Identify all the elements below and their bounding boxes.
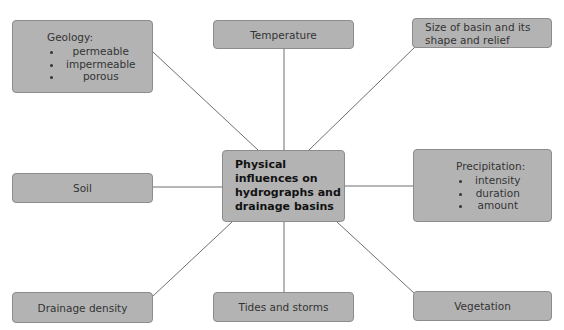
connector-geology bbox=[153, 52, 258, 150]
temperature-box: Temperature bbox=[213, 20, 354, 49]
soil-label: Soil bbox=[73, 182, 92, 194]
tides-box: Tides and storms bbox=[213, 292, 354, 322]
drainage-density-box: Drainage density bbox=[12, 292, 153, 323]
geology-item: permeable bbox=[63, 45, 136, 58]
geology-list: permeable impermeable porous bbox=[47, 45, 136, 83]
precipitation-item: amount bbox=[472, 199, 521, 212]
size-box: Size of basin and its shape and relief bbox=[412, 18, 552, 48]
soil-box: Soil bbox=[12, 173, 153, 203]
precipitation-heading: Precipitation: bbox=[456, 159, 525, 173]
geology-box: Geology: permeable impermeable porous bbox=[12, 20, 153, 93]
precipitation-item: intensity bbox=[472, 174, 521, 187]
connector-size bbox=[309, 47, 415, 150]
drainage-density-label: Drainage density bbox=[38, 302, 128, 314]
vegetation-label: Vegetation bbox=[454, 300, 511, 312]
connector-drainage-density bbox=[153, 222, 232, 296]
geology-item: porous bbox=[63, 70, 136, 83]
precipitation-list: intensity duration amount bbox=[456, 174, 521, 212]
precipitation-box: Precipitation: intensity duration amount bbox=[413, 149, 552, 222]
geology-heading: Geology: bbox=[47, 30, 93, 44]
geology-item: impermeable bbox=[63, 58, 136, 71]
temperature-label: Temperature bbox=[250, 29, 317, 41]
tides-label: Tides and storms bbox=[239, 301, 329, 313]
precipitation-item: duration bbox=[472, 187, 521, 200]
vegetation-box: Vegetation bbox=[413, 291, 552, 321]
center-label: Physical influences on hydrographs and d… bbox=[235, 158, 344, 214]
size-label: Size of basin and its shape and relief bbox=[425, 21, 549, 47]
center-box: Physical influences on hydrographs and d… bbox=[222, 150, 345, 222]
connector-vegetation bbox=[337, 222, 414, 293]
